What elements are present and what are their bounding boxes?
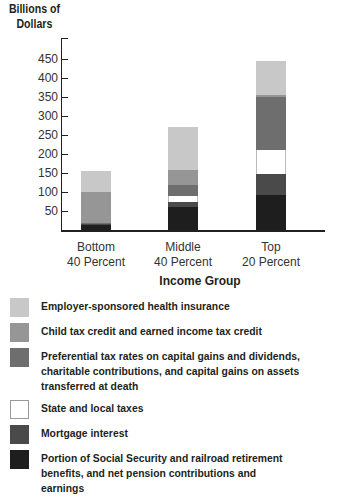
bar-segment <box>168 207 198 230</box>
y-tick <box>62 192 68 193</box>
x-category-label: Bottom40 Percent <box>51 240 141 270</box>
legend-item: Child tax credit and earned income tax c… <box>10 323 340 342</box>
y-tick <box>62 211 68 212</box>
bar-segment <box>256 174 286 195</box>
y-tick-label: 100 <box>20 186 58 198</box>
bar-segment <box>256 195 286 230</box>
bar-1 <box>168 127 198 230</box>
legend-swatch <box>10 450 29 469</box>
y-tick <box>62 97 68 98</box>
bar-segment <box>256 150 286 174</box>
legend-swatch <box>10 323 29 342</box>
y-tick <box>62 116 68 117</box>
bar-segment <box>168 170 198 185</box>
legend: Employer-sponsored health insuranceChild… <box>10 298 340 498</box>
y-axis-title-line1: Billions of <box>8 2 61 17</box>
legend-label: Preferential tax rates on capital gains … <box>41 349 302 394</box>
y-axis-title-line2: Dollars <box>8 17 61 32</box>
legend-swatch <box>10 298 29 317</box>
legend-swatch <box>10 348 29 367</box>
y-tick-label: 300 <box>20 110 58 122</box>
bar-2 <box>256 61 286 230</box>
legend-item: State and local taxes <box>10 400 340 419</box>
x-category-label: Top20 Percent <box>226 240 316 270</box>
y-axis-line <box>61 38 62 230</box>
y-tick-label: 450 <box>20 53 58 65</box>
y-tick-label: 400 <box>20 72 58 84</box>
y-axis-cap <box>61 38 68 39</box>
y-tick <box>62 78 68 79</box>
bar-segment <box>81 225 111 230</box>
x-category-label: Middle40 Percent <box>138 240 228 270</box>
y-tick-label: 50 <box>20 205 58 217</box>
legend-label: Child tax credit and earned income tax c… <box>41 324 302 339</box>
bar-segment <box>256 97 286 150</box>
bar-segment <box>256 61 286 95</box>
y-tick-label: 350 <box>20 91 58 103</box>
y-tick-label: 200 <box>20 148 58 160</box>
bar-segment <box>168 127 198 170</box>
legend-label: Employer-sponsored health insurance <box>41 299 302 314</box>
x-axis-line <box>61 230 325 232</box>
y-tick <box>62 59 68 60</box>
legend-item: Employer-sponsored health insurance <box>10 298 340 317</box>
legend-swatch <box>10 400 29 419</box>
legend-swatch <box>10 425 29 444</box>
y-tick <box>62 135 68 136</box>
bar-segment <box>81 171 111 192</box>
legend-label: Mortgage interest <box>41 426 302 441</box>
y-tick-label: 250 <box>20 129 58 141</box>
legend-label: Portion of Social Security and railroad … <box>41 451 302 496</box>
y-tick <box>62 173 68 174</box>
bar-segment <box>81 192 111 223</box>
x-axis-title: Income Group <box>150 274 250 288</box>
y-tick <box>62 154 68 155</box>
bar-segment <box>168 185 198 196</box>
legend-item: Portion of Social Security and railroad … <box>10 450 340 496</box>
legend-label: State and local taxes <box>41 401 302 416</box>
y-axis-title: Billions of Dollars <box>8 2 61 32</box>
y-tick-label: 150 <box>20 167 58 179</box>
legend-item: Preferential tax rates on capital gains … <box>10 348 340 394</box>
legend-item: Mortgage interest <box>10 425 340 444</box>
bar-0 <box>81 171 111 230</box>
